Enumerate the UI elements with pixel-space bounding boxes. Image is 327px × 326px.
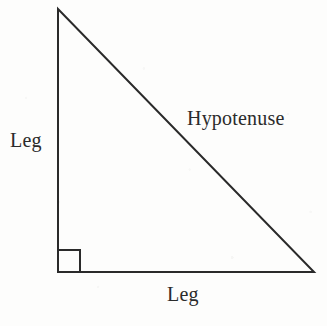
right-angle-square-icon bbox=[58, 250, 80, 272]
label-leg-horizontal: Leg bbox=[167, 284, 199, 304]
triangle-outline bbox=[58, 9, 314, 272]
label-leg-vertical: Leg bbox=[10, 130, 42, 150]
label-hypotenuse: Hypotenuse bbox=[187, 108, 285, 128]
right-triangle-diagram: Leg Hypotenuse Leg bbox=[0, 0, 327, 326]
triangle-graphic bbox=[0, 0, 327, 326]
